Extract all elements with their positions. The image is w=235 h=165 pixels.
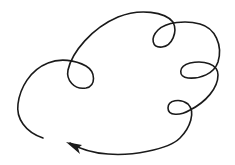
looping-curve (18, 12, 220, 154)
looping-curve-diagram (0, 0, 235, 165)
